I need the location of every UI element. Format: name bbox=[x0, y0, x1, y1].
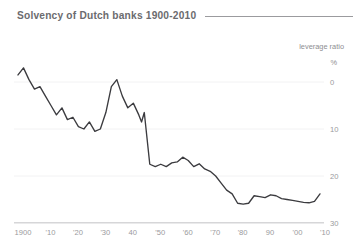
line-chart-svg bbox=[14, 55, 324, 225]
y-tick-label-1: 20 bbox=[330, 172, 338, 181]
x-tick-label-1960: '60 bbox=[183, 228, 193, 237]
x-tick-label-2000: '00 bbox=[293, 228, 303, 237]
x-tick-label-1950: '50 bbox=[155, 228, 165, 237]
figure-container: Solvency of Dutch banks 1900-2010 levera… bbox=[0, 0, 364, 245]
plot-area bbox=[14, 55, 324, 225]
y-tick-label-3: 0 bbox=[330, 78, 334, 87]
x-tick-label-1980: '80 bbox=[238, 228, 248, 237]
x-tick-label-1970: '70 bbox=[210, 228, 220, 237]
y-tick-label-0: 30 bbox=[330, 219, 338, 228]
y-tick-label-2: 10 bbox=[330, 125, 338, 134]
leverage-ratio-line bbox=[18, 68, 320, 204]
legend-label: leverage ratio bbox=[299, 42, 344, 52]
x-axis-line bbox=[14, 222, 324, 223]
x-tick-label-2010: '10 bbox=[320, 228, 330, 237]
title-row: Solvency of Dutch banks 1900-2010 bbox=[17, 7, 357, 23]
x-tick-label-1930: '30 bbox=[100, 228, 110, 237]
x-tick-label-1910: '10 bbox=[46, 228, 56, 237]
title-rule-divider bbox=[205, 16, 353, 17]
x-tick-label-1990: 90 bbox=[266, 228, 274, 237]
x-tick-label-1920: '20 bbox=[73, 228, 83, 237]
x-tick-label-1940: 40 bbox=[129, 228, 137, 237]
gridlines-group bbox=[14, 82, 324, 223]
page-title: Solvency of Dutch banks 1900-2010 bbox=[17, 9, 196, 22]
x-tick-label-1900: 1900 bbox=[15, 228, 32, 237]
